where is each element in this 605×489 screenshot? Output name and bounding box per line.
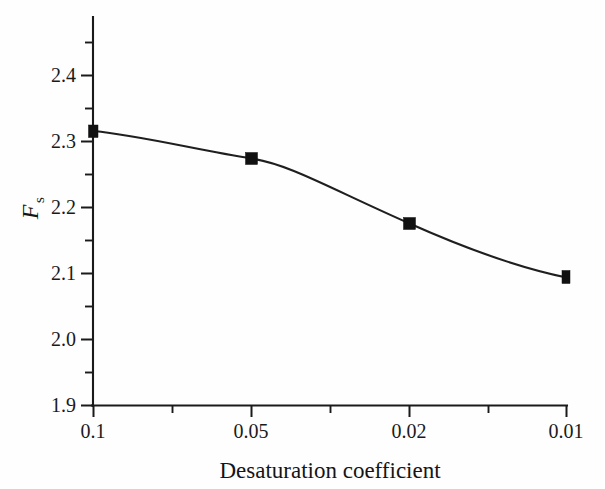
data-point-marker-1: [246, 153, 258, 165]
data-point-marker-2: [404, 218, 416, 230]
data-point-marker-3: [562, 271, 570, 284]
y-axis-title-base: F: [17, 204, 43, 220]
chart-background: [0, 0, 605, 489]
x-tick-label-0: 0.1: [81, 420, 106, 442]
line-chart-svg: 1.9 2.0 2.1 2.2 2.3 2.4 F s 0.1 0.: [0, 0, 605, 489]
y-tick-label-0: 1.9: [51, 394, 76, 416]
y-axis-title-subscript: s: [31, 197, 47, 203]
chart-figure: 1.9 2.0 2.1 2.2 2.3 2.4 F s 0.1 0.: [0, 0, 605, 489]
y-tick-label-5: 2.4: [51, 64, 76, 86]
x-tick-label-1: 0.05: [234, 420, 269, 442]
y-tick-label-3: 2.2: [51, 196, 76, 218]
data-point-marker-0: [89, 125, 99, 138]
x-tick-label-3: 0.01: [549, 420, 584, 442]
x-tick-label-2: 0.02: [392, 420, 427, 442]
y-tick-label-4: 2.3: [51, 130, 76, 152]
y-tick-label-1: 2.0: [51, 328, 76, 350]
y-tick-label-2: 2.1: [51, 262, 76, 284]
x-axis-title: Desaturation coefficient: [219, 458, 441, 483]
